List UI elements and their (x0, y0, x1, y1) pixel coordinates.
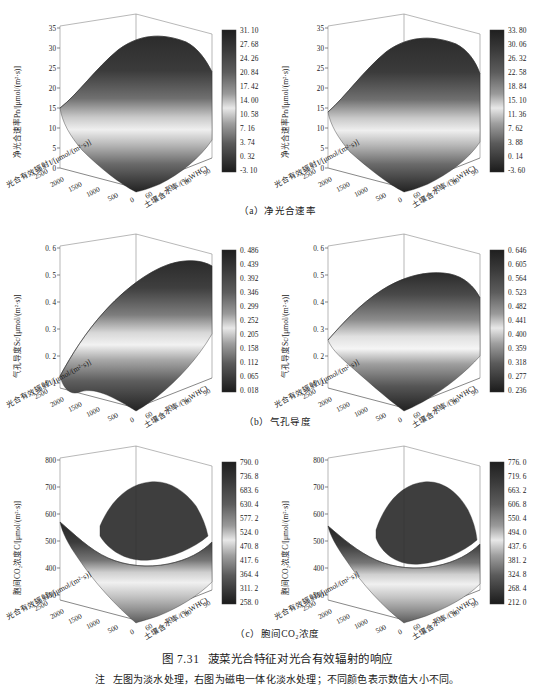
svg-text:0. 018: 0. 018 (240, 386, 259, 395)
svg-text:1500: 1500 (335, 400, 352, 414)
figure-note: 注左图为淡水处理，右图为磁电一体化淡水处理；不同颜色表示数值大小不同。 (0, 671, 555, 686)
svg-text:500: 500 (313, 538, 324, 546)
svg-text:1000: 1000 (353, 185, 370, 199)
colorbar-a-right (490, 30, 504, 172)
svg-text:0. 4: 0. 4 (45, 299, 56, 307)
colorbar-ticks-a-right: 33. 80 30. 06 26. 32 22. 58 18. 84 15. 1… (508, 26, 527, 175)
svg-text:524. 0: 524. 0 (240, 528, 259, 537)
svg-text:0. 486: 0. 486 (240, 246, 259, 255)
svg-text:500: 500 (45, 538, 56, 546)
svg-text:24. 26: 24. 26 (240, 54, 259, 63)
figure-caption-block: 图 7.31菠菜光合特征对光合有效辐射的响应 注左图为淡水处理，右图为磁电一体化… (0, 650, 555, 686)
surface-plot-a-left: 0 5 10 15 20 25 30 35 2500 2000 1500 (0, 8, 277, 208)
svg-text:324. 8: 324. 8 (508, 570, 527, 579)
svg-text:0. 236: 0. 236 (508, 386, 527, 395)
svg-text:268. 4: 268. 4 (508, 584, 527, 593)
svg-text:0. 439: 0. 439 (240, 260, 259, 269)
svg-text:1500: 1500 (67, 612, 84, 626)
svg-text:1000: 1000 (85, 185, 102, 199)
svg-text:0. 252: 0. 252 (240, 316, 259, 325)
svg-text:35: 35 (317, 25, 325, 33)
figure-note-text: 左图为淡水处理，右图为磁电一体化淡水处理；不同颜色表示数值大小不同。 (113, 674, 460, 685)
svg-text:0. 299: 0. 299 (240, 302, 259, 311)
svg-text:0. 6: 0. 6 (45, 245, 56, 253)
z-axis-label-b-left: 气孔导度Sc/[μmol/(m²·s)] (12, 295, 22, 378)
z-ticks-b-left: 0. 1 0. 2 0. 3 0. 4 0. 5 0. 6 (45, 245, 60, 388)
svg-text:10: 10 (317, 125, 325, 133)
z-axis-label-a-right: 净光合速率Pn/[μmol/(m²·s)] (280, 66, 290, 158)
svg-text:800: 800 (313, 457, 324, 465)
figure-container: 0 5 10 15 20 25 30 35 2500 2000 1500 (0, 0, 555, 698)
z-axis-label-a-left: 净光合速率Pn/[μmol/(m²·s)] (12, 66, 22, 158)
svg-text:1500: 1500 (335, 180, 352, 194)
svg-text:35: 35 (49, 25, 57, 33)
colorbar-b-left (222, 250, 236, 392)
svg-text:30. 06: 30. 06 (508, 40, 527, 49)
svg-text:500: 500 (374, 191, 388, 203)
svg-text:212. 0: 212. 0 (508, 598, 527, 607)
z-axis-label-c-right: 胞间CO₂浓度C/[μmol/(m²·s)] (280, 501, 290, 595)
svg-text:5: 5 (52, 145, 56, 153)
svg-text:10: 10 (49, 125, 57, 133)
svg-text:27. 68: 27. 68 (240, 40, 259, 49)
svg-text:0. 359: 0. 359 (508, 344, 527, 353)
svg-text:700: 700 (45, 484, 56, 492)
svg-text:776. 0: 776. 0 (508, 458, 527, 467)
svg-text:17. 42: 17. 42 (240, 82, 259, 91)
svg-text:0. 3: 0. 3 (45, 326, 56, 334)
panel-b-right: 0. 1 0. 2 0. 3 0. 4 0. 5 0. 6 2500 2000 … (268, 228, 545, 428)
svg-text:1500: 1500 (67, 180, 84, 194)
svg-text:400: 400 (45, 565, 56, 573)
svg-text:790. 0: 790. 0 (240, 458, 259, 467)
figure-row-b: 0. 1 0. 2 0. 3 0. 4 0. 5 0. 6 2500 2000 … (0, 228, 555, 438)
surface-plot-c-right: 300 400 500 600 700 800 2500 2000 1500 1… (268, 440, 545, 640)
svg-text:494. 0: 494. 0 (508, 528, 527, 537)
svg-text:2000: 2000 (317, 607, 334, 621)
svg-text:437. 6: 437. 6 (508, 542, 527, 551)
colorbar-a-left (222, 30, 236, 172)
svg-text:15: 15 (317, 105, 325, 113)
svg-text:0. 065: 0. 065 (240, 372, 259, 381)
surface-mesh-a-right (328, 38, 480, 192)
svg-text:2000: 2000 (317, 175, 334, 189)
svg-text:25: 25 (49, 65, 57, 73)
svg-text:0. 277: 0. 277 (508, 372, 527, 381)
svg-text:258. 0: 258. 0 (240, 598, 259, 607)
colorbar-ticks-b-left: 0. 486 0. 439 0. 392 0. 346 0. 299 0. 25… (240, 246, 259, 395)
colorbar-ticks-c-right: 776. 0 719. 6 663. 2 606. 8 550. 4 494. … (508, 458, 527, 607)
z-ticks-c-right: 300 400 500 600 700 800 (313, 457, 328, 600)
svg-text:0. 605: 0. 605 (508, 260, 527, 269)
svg-text:7. 16: 7. 16 (240, 124, 255, 133)
svg-text:700: 700 (313, 484, 324, 492)
svg-text:500: 500 (106, 191, 120, 203)
svg-text:470. 8: 470. 8 (240, 542, 259, 551)
svg-text:30: 30 (49, 45, 57, 53)
svg-text:600: 600 (313, 511, 324, 519)
svg-text:33. 80: 33. 80 (508, 26, 527, 35)
svg-text:0. 205: 0. 205 (240, 330, 259, 339)
surface-plot-b-left: 0. 1 0. 2 0. 3 0. 4 0. 5 0. 6 2500 2000 … (0, 228, 277, 428)
svg-text:2000: 2000 (49, 607, 66, 621)
svg-text:0. 32: 0. 32 (240, 152, 255, 161)
surface-plot-b-right: 0. 1 0. 2 0. 3 0. 4 0. 5 0. 6 2500 2000 … (268, 228, 545, 428)
figure-title-text: 菠菜光合特征对光合有效辐射的响应 (208, 653, 394, 665)
figure-number: 图 7.31 (162, 653, 200, 665)
svg-text:31. 10: 31. 10 (240, 26, 259, 35)
panel-c-left: 300 400 500 600 700 800 2500 2000 1500 1… (0, 440, 277, 640)
surface-mesh-b-right (328, 273, 480, 411)
surface-plot-c-left: 300 400 500 600 700 800 2500 2000 1500 1… (0, 440, 277, 640)
surface-plot-a-right: 0 5 10 15 20 25 30 35 2500 2000 1500 100… (268, 8, 545, 208)
z-axis-label-b-right: 气孔导度Sc/[μmol/(m²·s)] (280, 295, 290, 378)
svg-text:0. 392: 0. 392 (240, 274, 259, 283)
svg-text:3. 74: 3. 74 (240, 138, 255, 147)
svg-text:0. 482: 0. 482 (508, 302, 527, 311)
svg-text:606. 8: 606. 8 (508, 500, 527, 509)
svg-text:0. 3: 0. 3 (313, 326, 324, 334)
svg-text:364. 4: 364. 4 (240, 570, 259, 579)
svg-text:630. 4: 630. 4 (240, 500, 259, 509)
svg-text:20: 20 (317, 85, 325, 93)
svg-text:1500: 1500 (335, 612, 352, 626)
svg-text:0. 400: 0. 400 (508, 330, 527, 339)
svg-text:577. 2: 577. 2 (240, 514, 259, 523)
svg-text:11. 36: 11. 36 (508, 110, 527, 119)
